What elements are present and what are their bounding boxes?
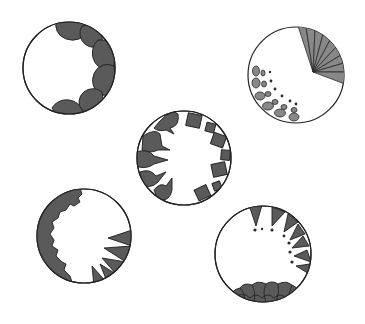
circle-top-left <box>23 18 118 120</box>
circle-bottom-right <box>215 205 311 310</box>
diagram-canvas <box>0 0 365 324</box>
circle-bottom-left <box>30 186 132 288</box>
circle-center <box>136 111 231 205</box>
circle-top-right <box>248 26 345 123</box>
